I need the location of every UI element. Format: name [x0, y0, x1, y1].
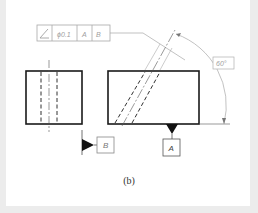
right-view — [108, 30, 230, 126]
datum-ref-primary: A — [81, 31, 87, 38]
tolerance-value: ϕ0.1 — [57, 31, 71, 39]
datum-ref-secondary: B — [96, 31, 101, 38]
angle-arc — [176, 34, 226, 124]
angle-dimension-value: 60° — [216, 60, 227, 67]
datum-a-label: A — [168, 144, 174, 153]
datum-b-symbol — [82, 130, 114, 155]
datum-b-label: B — [103, 141, 109, 150]
leader-line — [110, 33, 185, 60]
left-view — [26, 60, 82, 132]
hole-axis — [122, 30, 175, 126]
figure-caption: (b) — [0, 175, 258, 186]
